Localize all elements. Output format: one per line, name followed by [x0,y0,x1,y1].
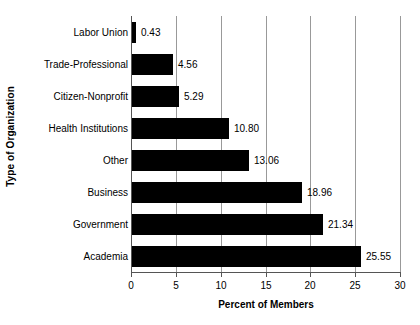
x-axis-title: Percent of Members [131,299,401,310]
category-label: Health Institutions [20,124,128,134]
category-label: Trade-Professional [20,60,128,70]
bar-value-label: 25.55 [366,252,391,262]
bar-value-label: 0.43 [141,28,160,38]
category-label: Government [20,220,128,230]
gridline-30 [400,16,401,272]
x-tick-label: 30 [394,280,405,291]
bar-value-label: 10.80 [234,124,259,134]
x-tick-label: 15 [260,280,271,291]
bar [132,214,323,235]
bar [132,54,173,75]
x-tick-0 [131,272,132,277]
bar [132,182,302,203]
bar-value-label: 4.56 [178,60,197,70]
bar-value-label: 5.29 [184,92,203,102]
bar [132,22,136,43]
category-label: Labor Union [20,28,128,38]
bar [132,150,249,171]
x-tick-label: 0 [128,280,134,291]
x-tick-30 [400,272,401,277]
x-tick-5 [176,272,177,277]
x-tick-25 [355,272,356,277]
x-tick-10 [221,272,222,277]
bar-chart: Type of Organization Labor UnionTrade-Pr… [0,0,420,325]
bar-value-label: 18.96 [307,188,332,198]
category-label: Citizen-Nonprofit [20,92,128,102]
bar [132,86,179,107]
y-axis-title-text: Type of Organization [5,86,16,187]
category-label: Other [20,156,128,166]
bar-value-label: 21.34 [328,220,353,230]
bar [132,118,229,139]
x-tick-20 [310,272,311,277]
x-tick-label: 20 [304,280,315,291]
x-tick-label: 10 [215,280,226,291]
gridline-25 [355,16,356,272]
plot-area: 0.434.565.2910.8013.0618.9621.3425.55 [131,16,400,272]
bar [132,246,361,267]
y-axis-tick-labels: Labor UnionTrade-ProfessionalCitizen-Non… [20,16,128,272]
y-axis-title: Type of Organization [0,0,20,272]
category-label: Academia [20,252,128,262]
category-label: Business [20,188,128,198]
x-tick-label: 5 [173,280,179,291]
bar-value-label: 13.06 [254,156,279,166]
x-tick-label: 25 [349,280,360,291]
x-tick-15 [266,272,267,277]
